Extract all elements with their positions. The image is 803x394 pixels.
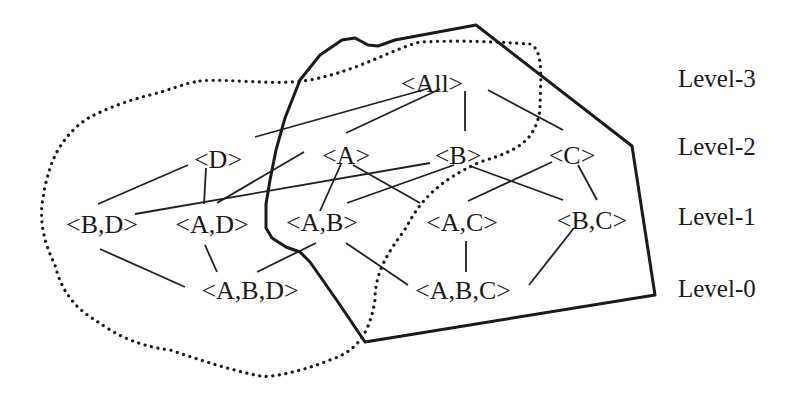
level-label: Level-1: [678, 203, 756, 230]
node-all: <All>: [401, 69, 464, 98]
edge-c-bc: [578, 165, 597, 200]
node-ad: <A,D>: [175, 210, 248, 239]
edge-b-bc: [470, 166, 563, 200]
level-label: Level-2: [678, 133, 756, 160]
levels-group: Level-3Level-2Level-1Level-0: [678, 65, 756, 302]
node-bd: <B,D>: [66, 210, 138, 239]
node-d: <D>: [194, 145, 242, 174]
node-ac: <A,C>: [426, 208, 498, 237]
edge-d-bd: [98, 165, 188, 204]
edge-bc-abc: [529, 228, 574, 285]
level-label: Level-0: [678, 275, 756, 302]
node-b: <B>: [435, 141, 482, 170]
node-ab: <A,B>: [286, 208, 358, 237]
edge-ad-abd: [205, 245, 217, 272]
edge-a-ab: [320, 164, 341, 211]
edges-group: [98, 88, 597, 287]
node-bc: <B,C>: [557, 206, 628, 235]
lattice-diagram: <All><D><A><B><C><B,D><A,D><A,B><A,C><B,…: [0, 0, 803, 394]
node-abc: <A,B,C>: [415, 276, 511, 305]
node-c: <C>: [549, 141, 596, 170]
edge-all-c: [488, 90, 563, 130]
edge-ab-abc: [346, 243, 408, 285]
edge-bd-abd: [100, 249, 185, 287]
node-a: <A>: [322, 141, 370, 170]
level-label: Level-3: [678, 65, 756, 92]
node-abd: <A,B,D>: [201, 276, 298, 305]
nodes-group: <All><D><A><B><C><B,D><A,D><A,B><A,C><B,…: [66, 69, 627, 305]
